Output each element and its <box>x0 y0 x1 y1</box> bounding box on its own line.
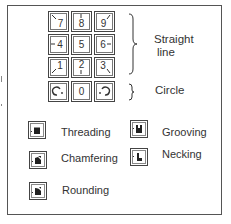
margin-mark <box>1 104 2 106</box>
straight-line-text-1: Straight <box>154 33 194 46</box>
key-circle-cw[interactable] <box>94 81 115 102</box>
key-label: 4 <box>52 40 68 50</box>
straight-line-label: Straight line <box>154 33 194 59</box>
threading-label: Threading <box>61 126 111 139</box>
key-label: 5 <box>72 40 91 50</box>
key-label: 0 <box>72 87 91 97</box>
key-label: 1 <box>52 61 68 71</box>
key-5-center[interactable]: 5 <box>71 34 92 55</box>
grooving-label: Grooving <box>162 126 207 139</box>
rounding-button[interactable] <box>29 182 47 200</box>
key-label: 2 <box>72 60 91 70</box>
key-label: 6 <box>92 40 114 50</box>
key-circle-ccw[interactable] <box>48 81 69 102</box>
key-4-left[interactable]: 4 <box>48 34 69 55</box>
key-label: 9 <box>93 19 114 29</box>
key-3-down-right[interactable]: 3 <box>94 57 115 78</box>
key-2-down[interactable]: 2 <box>71 57 92 78</box>
straight-line-text-2: line <box>154 46 194 59</box>
necking-label: Necking <box>162 148 202 161</box>
key-9-up-right[interactable]: 9 <box>94 11 115 32</box>
threading-icon <box>30 123 43 136</box>
grooving-icon <box>132 122 145 135</box>
key-8-up[interactable]: 8 <box>71 11 92 32</box>
key-label: 8 <box>72 19 91 29</box>
necking-icon <box>132 150 145 163</box>
key-label: 3 <box>92 61 114 71</box>
rounding-label: Rounding <box>62 184 109 197</box>
key-6-right[interactable]: 6 <box>94 34 115 55</box>
chamfering-label: Chamfering <box>61 152 118 165</box>
margin-mark <box>1 76 2 82</box>
circle-brace <box>128 83 136 101</box>
necking-button[interactable] <box>130 148 148 166</box>
chamfering-button[interactable] <box>29 151 47 169</box>
key-label: 7 <box>53 19 68 29</box>
straight-line-brace <box>128 13 140 75</box>
key-0[interactable]: 0 <box>71 81 92 102</box>
grooving-button[interactable] <box>130 120 148 138</box>
threading-button[interactable] <box>28 121 46 139</box>
circle-ccw-icon <box>49 82 67 100</box>
rounding-icon <box>31 184 44 197</box>
circle-label: Circle <box>155 84 184 97</box>
key-1-down-left[interactable]: 1 <box>48 57 69 78</box>
direction-keypad: 7 8 9 4 5 6 1 2 3 0 <box>48 11 118 103</box>
chamfering-icon <box>31 153 44 166</box>
circle-cw-icon <box>95 82 113 100</box>
key-7-up-left[interactable]: 7 <box>48 11 69 32</box>
